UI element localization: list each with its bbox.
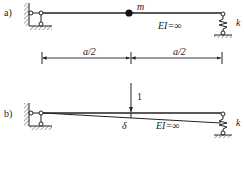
stiffness-label-a: EI=∞ [157, 20, 181, 31]
dimension-lines: a/2 a/2 [42, 46, 222, 64]
spring-support-icon [214, 12, 232, 38]
structural-diagram: a) m EI=∞ k [0, 0, 244, 176]
spring-support-icon [214, 112, 232, 138]
part-b: b) 1 δ EI=∞ k [4, 83, 241, 138]
beam-b-deformed [43, 113, 221, 123]
dimension-right-label: a/2 [173, 46, 186, 57]
left-support-icon [24, 3, 52, 30]
part-a-label: a) [4, 7, 12, 19]
spring-label-a: k [236, 17, 241, 28]
unit-load-label: 1 [137, 91, 142, 102]
deflection-label: δ [122, 120, 127, 131]
left-support-icon [24, 103, 52, 130]
stiffness-label-b: EI=∞ [155, 120, 179, 131]
mass-icon [125, 9, 132, 16]
spring-label-b: k [236, 117, 241, 128]
dimension-left-label: a/2 [83, 46, 96, 57]
part-a: a) m EI=∞ k [4, 1, 241, 38]
part-b-label: b) [4, 108, 12, 120]
mass-label: m [137, 1, 144, 12]
